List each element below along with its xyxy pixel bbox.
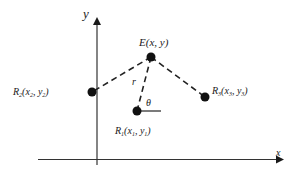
dashed-line-e-r3 [151,57,205,97]
point-e-label: E(x, y) [138,36,169,49]
dashed-line-e-r2 [92,57,151,92]
x-axis-label: x [275,147,281,158]
distance-label: r [132,76,136,87]
point-e [147,53,156,62]
point-r3-label: R3(x3, y3) [211,85,248,97]
point-r2-label: R2(x2, y2) [12,86,49,98]
point-r2 [88,88,97,97]
point-r1-label: R1(x1, y1) [114,125,151,137]
point-r1 [133,107,142,116]
point-r3 [201,93,210,102]
y-axis-label: y [81,6,89,21]
triangulation-diagram: y x E(x, y) r θ R2(x2, y2) R3(x3, y3) R1… [0,0,298,174]
angle-label: θ [146,97,151,108]
